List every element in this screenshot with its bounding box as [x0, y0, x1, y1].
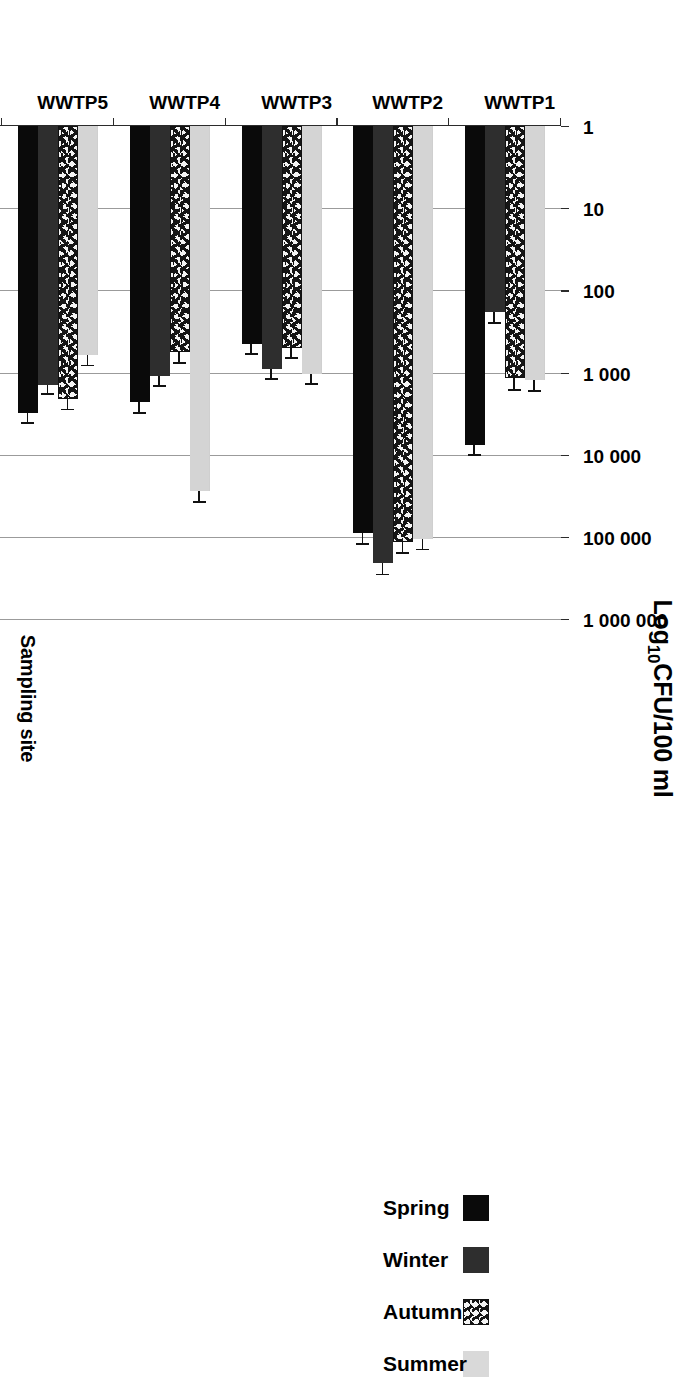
category-label-wwtp3: WWTP3 [261, 92, 332, 114]
error-bar [362, 533, 364, 543]
category-axis-tick [1, 118, 2, 126]
value-axis-tick [561, 126, 569, 127]
error-bar [513, 378, 515, 389]
error-bar-cap [396, 552, 409, 554]
value-axis-tick-label: 1 [583, 117, 594, 139]
error-bar [87, 355, 89, 364]
legend-label-autumn: Autumn [383, 1300, 409, 1324]
bar-wwtp1-summer [525, 126, 545, 380]
error-bar [473, 445, 475, 454]
error-bar [422, 539, 424, 549]
error-bar-cap [265, 378, 278, 380]
bar-wwtp5-spring [18, 126, 38, 413]
category-axis-tick [336, 118, 337, 126]
rotated-chart-container: Log10CFU/100 ml Sampling site 1101001 00… [0, 0, 699, 1397]
error-bar-cap [528, 390, 541, 392]
bar-wwtp3-winter [262, 126, 282, 369]
legend-label-spring: Spring [383, 1196, 409, 1220]
bar-wwtp4-spring [130, 126, 150, 402]
error-bar [138, 402, 140, 411]
category-label-wwtp4: WWTP4 [149, 92, 220, 114]
gridline [0, 619, 561, 620]
bar-wwtp5-winter [38, 126, 58, 385]
error-bar-cap [41, 393, 54, 395]
bar-group [0, 126, 2, 619]
error-bar [178, 352, 180, 361]
error-bar-cap [468, 454, 481, 456]
bar-group [449, 126, 561, 619]
bar-wwtp5-autumn [58, 126, 78, 399]
category-axis-tick [113, 118, 114, 126]
error-bar-cap [285, 357, 298, 359]
error-bar [270, 369, 272, 378]
bar-wwtp3-spring [242, 126, 262, 344]
bar-group [338, 126, 450, 619]
bar-wwtp1-autumn [505, 126, 525, 378]
legend-item-summer[interactable]: Summer [384, 1351, 489, 1377]
error-bar-cap [356, 543, 369, 545]
value-axis-tick [561, 537, 569, 538]
category-axis-tick [448, 118, 449, 126]
legend-item-winter[interactable]: Winter [384, 1247, 489, 1273]
error-bar [47, 385, 49, 394]
legend-swatch-spring [463, 1195, 489, 1221]
error-bar [493, 312, 495, 322]
figure-canvas: Log10CFU/100 ml Sampling site 1101001 00… [0, 0, 699, 1397]
error-bar-cap [193, 501, 206, 503]
error-bar-cap [21, 422, 34, 424]
legend-swatch-autumn [463, 1299, 489, 1325]
error-bar-cap [153, 385, 166, 387]
error-bar [67, 399, 69, 409]
category-label-wwtp5: WWTP5 [37, 92, 108, 114]
legend-label-summer: Summer [383, 1352, 409, 1376]
category-axis-tick [225, 118, 226, 126]
value-axis-tick-label: 1 000 [583, 364, 631, 386]
error-bar [533, 380, 535, 389]
error-bar-cap [245, 353, 258, 355]
bar-group [114, 126, 226, 619]
error-bar-cap [376, 574, 389, 576]
bar-wwtp2-spring [353, 126, 373, 533]
legend-item-autumn[interactable]: Autumn [384, 1299, 489, 1325]
value-axis-tick-label: 100 [583, 281, 615, 303]
bar-group [226, 126, 338, 619]
chart-legend: SummerAutumnWinterSpring [384, 1195, 489, 1377]
error-bar [402, 542, 404, 552]
value-axis-tick-label: 10 000 [583, 446, 641, 468]
value-axis-title-post: CFU/100 ml [649, 663, 677, 797]
legend-label-winter: Winter [383, 1248, 409, 1272]
bar-wwtp2-autumn [393, 126, 413, 542]
category-axis-tick [560, 118, 561, 126]
value-axis-tick-label: 10 [583, 199, 604, 221]
value-axis-tick [561, 208, 569, 209]
bar-wwtp3-autumn [282, 126, 302, 348]
category-label-wwtp2: WWTP2 [373, 92, 444, 114]
bar-wwtp4-autumn [170, 126, 190, 352]
bar-wwtp5-summer [78, 126, 98, 355]
error-bar-cap [81, 365, 94, 367]
bar-wwtp1-spring [465, 126, 485, 445]
error-bar [290, 348, 292, 357]
value-axis-tick [561, 619, 569, 620]
bar-wwtp4-winter [150, 126, 170, 376]
value-axis-tick-label: 1 000 000 [583, 610, 668, 632]
error-bar [198, 491, 200, 501]
error-bar-cap [173, 362, 186, 364]
value-axis-tick-label: 100 000 [583, 528, 652, 550]
error-bar [310, 374, 312, 383]
error-bar-cap [508, 389, 521, 391]
bar-wwtp3-summer [302, 126, 322, 374]
error-bar [27, 413, 29, 422]
bar-wwtp2-winter [373, 126, 393, 563]
legend-swatch-winter [463, 1247, 489, 1273]
error-bar [382, 563, 384, 573]
bar-wwtp1-winter [485, 126, 505, 312]
value-axis-tick [561, 455, 569, 456]
bar-wwtp4-summer [190, 126, 210, 491]
error-bar-cap [488, 322, 501, 324]
plot-area: 1101001 00010 000100 0001 000 000WWTP1WW… [0, 125, 561, 619]
error-bar-cap [133, 412, 146, 414]
error-bar [158, 376, 160, 385]
legend-item-spring[interactable]: Spring [384, 1195, 489, 1221]
chart-plot-wrapper: Log10CFU/100 ml Sampling site 1101001 00… [0, 0, 699, 1397]
